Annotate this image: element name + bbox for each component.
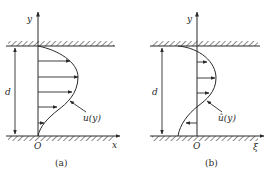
profile-label: u(y) [83, 113, 101, 123]
panel-a: y x O d u(y) (a) [5, 12, 120, 168]
bottom-wall-hatch [8, 136, 114, 141]
gap-label: d [5, 87, 11, 97]
origin-label: O [193, 141, 201, 151]
gap-label: d [152, 87, 158, 97]
bottom-wall-hatch [152, 136, 258, 141]
top-wall-hatch [8, 41, 114, 46]
panel-caption: (b) [205, 158, 218, 168]
panel-caption: (a) [55, 158, 67, 168]
velocity-profile-diagram: y x O d u(y) (a) y ξ O d û(y) (b) [0, 0, 269, 184]
velocity-profile-curve [38, 46, 78, 136]
y-axis-label: y [26, 14, 33, 24]
profile-label: û(y) [218, 113, 236, 123]
top-wall-hatch [152, 41, 258, 46]
profile-label-leader [70, 101, 86, 112]
x-axis-label: x [112, 140, 117, 150]
y-axis-label: y [186, 14, 193, 24]
panel-b: y ξ O d û(y) (b) [150, 12, 264, 168]
profile-label-leader [207, 101, 222, 112]
xi-axis-label: ξ [253, 142, 259, 152]
origin-label: O [34, 141, 42, 151]
